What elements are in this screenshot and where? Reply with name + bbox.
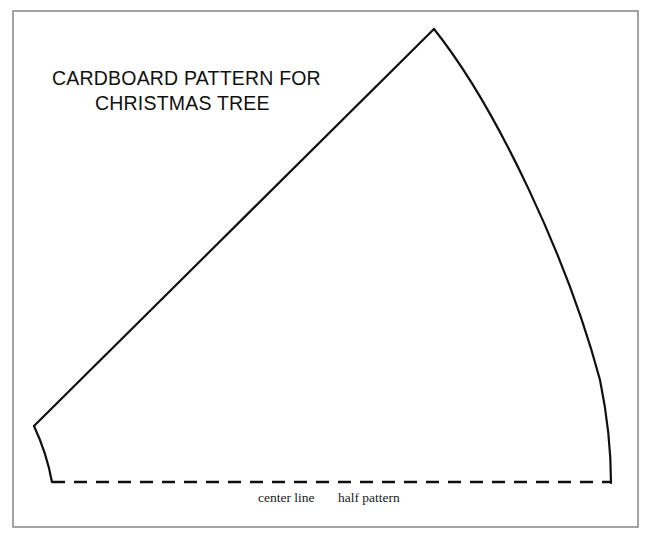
cardboard-pattern-diagram: CARDBOARD PATTERN FOR CHRISTMAS TREE cen… bbox=[0, 0, 654, 536]
pattern-left-skirt-curve bbox=[34, 426, 52, 482]
pattern-right-curved-edge bbox=[434, 29, 611, 483]
half-pattern-label: half pattern bbox=[338, 490, 400, 505]
page-title-line-2: CHRISTMAS TREE bbox=[95, 92, 270, 114]
pattern-drawing-page: CARDBOARD PATTERN FOR CHRISTMAS TREE cen… bbox=[0, 0, 654, 536]
page-title-line-1: CARDBOARD PATTERN FOR bbox=[52, 67, 321, 89]
center-line-label: center line bbox=[258, 490, 315, 505]
